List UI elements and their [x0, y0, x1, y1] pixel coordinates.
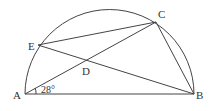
point-label-D: D	[82, 65, 90, 77]
point-label-E: E	[28, 40, 35, 52]
geometry-figure: A B C D E 28°	[0, 0, 210, 111]
semicircle-arc	[25, 10, 194, 94]
point-label-C: C	[158, 8, 165, 20]
segment-EB	[38, 45, 194, 94]
point-label-A: A	[13, 89, 21, 101]
segment-BC	[156, 22, 194, 94]
point-label-B: B	[196, 89, 203, 101]
angle-label-A: 28°	[41, 84, 55, 95]
segment-EC	[38, 22, 156, 45]
angle-arc-A	[35, 88, 36, 94]
